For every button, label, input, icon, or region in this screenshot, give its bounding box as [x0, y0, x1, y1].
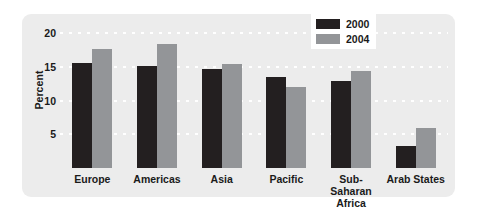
bar-2004-1	[157, 44, 177, 168]
x-axis-label: Arab States	[383, 172, 448, 212]
legend-swatch-icon	[316, 19, 340, 29]
y-axis-tick-label: 10	[26, 95, 56, 107]
bar-2004-4	[351, 71, 371, 168]
bar-group	[125, 20, 190, 168]
bar-group	[254, 20, 319, 168]
x-axis-label: Sub-Saharan Africa	[319, 172, 384, 212]
bar-2000-3	[266, 77, 286, 168]
y-axis-tick-label: 20	[26, 27, 56, 39]
x-axis-label: Europe	[60, 172, 125, 212]
x-axis-category-labels: EuropeAmericasAsiaPacificSub-Saharan Afr…	[60, 172, 448, 212]
bar-2004-0	[92, 49, 112, 168]
bar-chart: Percent 5101520 EuropeAmericasAsiaPacifi…	[0, 0, 479, 214]
plot-area	[60, 20, 448, 168]
bar-group	[189, 20, 254, 168]
bar-group	[383, 20, 448, 168]
bar-2000-2	[202, 69, 222, 168]
bar-2000-4	[331, 81, 351, 168]
bar-2000-5	[396, 146, 416, 168]
x-axis-label: Asia	[189, 172, 254, 212]
y-axis-tick-label: 15	[26, 61, 56, 73]
x-axis-label: Pacific	[254, 172, 319, 212]
legend-swatch-icon	[316, 34, 340, 44]
legend-label: 2000	[346, 18, 369, 30]
chart-legend: 20002004	[311, 14, 376, 49]
bar-2004-5	[416, 128, 436, 168]
y-axis-tick-labels: 5101520	[26, 0, 56, 214]
x-axis-label: Americas	[125, 172, 190, 212]
bar-groups	[60, 20, 448, 168]
y-axis-tick-label: 5	[26, 128, 56, 140]
legend-label: 2004	[346, 33, 369, 45]
bar-2000-0	[72, 63, 92, 168]
legend-item: 2000	[316, 18, 369, 30]
legend-item: 2004	[316, 33, 369, 45]
bar-group	[60, 20, 125, 168]
bar-2000-1	[137, 66, 157, 168]
bar-2004-2	[222, 64, 242, 168]
bar-2004-3	[286, 87, 306, 168]
